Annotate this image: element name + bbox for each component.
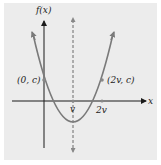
x-axis-label: x bbox=[148, 96, 153, 106]
point-0-c bbox=[42, 78, 46, 82]
tick-v bbox=[71, 99, 74, 102]
tick-2v bbox=[100, 99, 103, 102]
parabola-diagram: f(x) x (0, c) (2v, c) v 2v bbox=[0, 0, 161, 165]
point-label-2v-c: (2v, c) bbox=[107, 75, 135, 85]
point-2v-c bbox=[100, 78, 104, 82]
tick-label-v: v bbox=[70, 104, 75, 114]
y-axis-label: f(x) bbox=[35, 5, 52, 15]
tick-label-2v: 2v bbox=[95, 105, 107, 115]
point-label-0-c: (0, c) bbox=[17, 75, 41, 85]
